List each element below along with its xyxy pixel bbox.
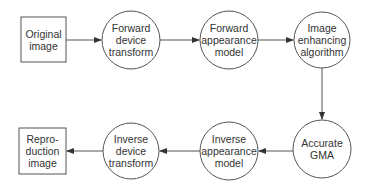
accurate-gma-label: Accurate GMA	[293, 120, 351, 178]
reproduction-image-label: Repro- duction image	[19, 128, 66, 174]
forward-appearance-model-label: Forward appearance model	[196, 11, 262, 69]
original-image-label: Original image	[21, 17, 66, 62]
image-enhancing-algorithm-label: Image enhancing algorithm	[294, 12, 350, 68]
forward-device-transform-label: Forward device transform	[102, 11, 160, 69]
inverse-device-transform-label: Inverse device transform	[103, 123, 159, 179]
inverse-appearance-model-label: Inverse appearance model	[196, 122, 262, 180]
